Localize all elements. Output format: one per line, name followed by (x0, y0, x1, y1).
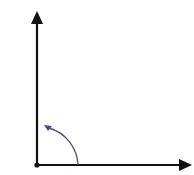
up-arrow-icon (31, 11, 43, 24)
rotation-arc (44, 125, 78, 165)
origin-dot (34, 162, 39, 167)
angle-diagram (0, 0, 194, 175)
vertical-axis (31, 11, 43, 165)
right-arrow-icon (179, 159, 192, 171)
horizontal-axis (37, 159, 192, 171)
